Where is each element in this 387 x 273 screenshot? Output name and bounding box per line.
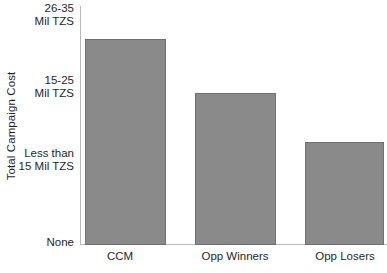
x-tick-label-opp-losers: Opp Losers	[292, 250, 387, 262]
y-tick-label-15-25: 15-25 Mil TZS	[35, 74, 74, 99]
y-axis-line	[80, 6, 81, 245]
y-tick-label-less-than-15: Less than 15 Mil TZS	[19, 147, 74, 172]
plot-area	[80, 0, 387, 245]
x-axis-line	[80, 244, 387, 245]
x-tick-label-opp-winners: Opp Winners	[180, 250, 290, 262]
y-axis-title: Total Campaign Cost	[0, 0, 22, 252]
y-axis-title-text: Total Campaign Cost	[5, 72, 17, 181]
y-tick-label-26-35: 26-35 Mil TZS	[35, 2, 74, 27]
bar-chart: Total Campaign Cost 26-35 Mil TZS 15-25 …	[0, 0, 387, 273]
y-tick-label-none: None	[47, 236, 75, 249]
x-tick-label-ccm: CCM	[70, 250, 170, 262]
